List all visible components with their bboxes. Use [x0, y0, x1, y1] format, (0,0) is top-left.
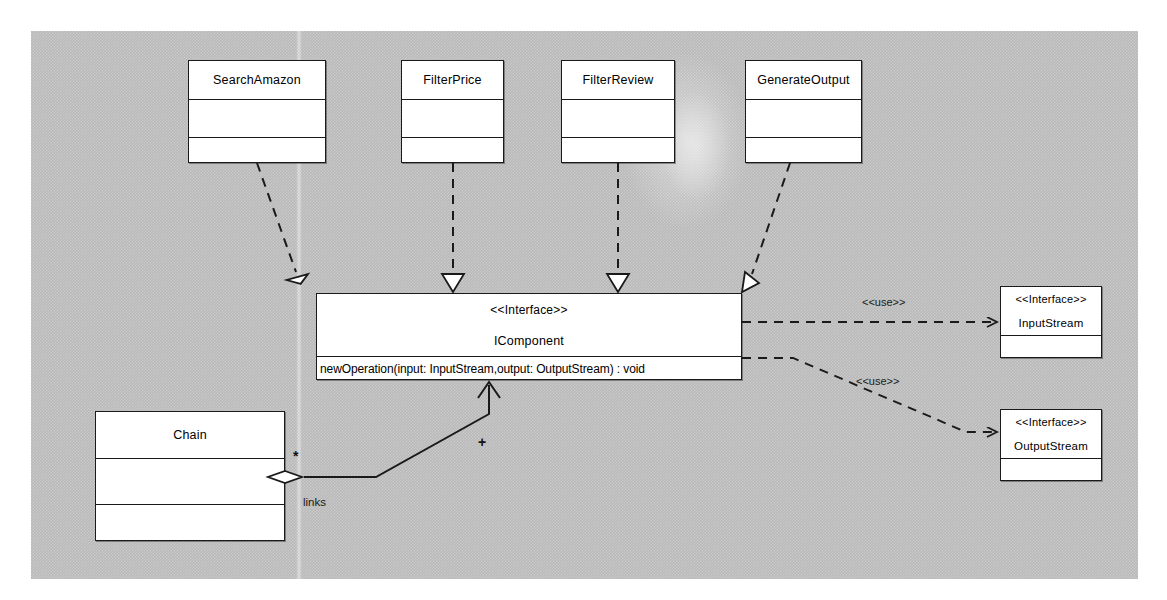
interface-operations-compartment	[1001, 458, 1101, 482]
class-operations-compartment	[746, 137, 861, 162]
interface-name-compartment: IComponent	[317, 325, 741, 356]
interface-stereotype-label: <<Interface>>	[1015, 416, 1086, 428]
class-box-generate-output[interactable]: GenerateOutput	[745, 60, 862, 163]
class-attributes-compartment	[562, 99, 674, 137]
interface-box-input-stream[interactable]: <<Interface>> InputStream	[1000, 286, 1102, 358]
use-label-output-stream: <<use>>	[856, 375, 899, 387]
class-name-compartment: FilterPrice	[402, 61, 503, 99]
class-operations-compartment	[96, 504, 284, 540]
interface-operations-compartment: newOperation(input: InputStream,output: …	[317, 356, 741, 381]
association-label-links: links	[303, 496, 326, 508]
interface-name-label: InputStream	[1019, 317, 1084, 329]
class-box-filter-review[interactable]: FilterReview	[561, 60, 675, 163]
interface-name-compartment: OutputStream	[1001, 434, 1101, 458]
class-name-label: Chain	[173, 428, 207, 442]
class-box-filter-price[interactable]: FilterPrice	[401, 60, 504, 163]
interface-name-label: OutputStream	[1014, 440, 1088, 452]
interface-stereotype-compartment: <<Interface>>	[1001, 410, 1101, 434]
class-name-label: FilterReview	[582, 73, 653, 87]
interface-operations-compartment	[1001, 335, 1101, 359]
operation-signature-label: newOperation(input: InputStream,output: …	[320, 362, 645, 376]
interface-name-label: IComponent	[494, 334, 564, 348]
interface-stereotype-compartment: <<Interface>>	[1001, 287, 1101, 311]
interface-stereotype-label: <<Interface>>	[1015, 293, 1086, 305]
class-operations-compartment	[189, 137, 325, 162]
class-name-compartment: Chain	[96, 412, 284, 458]
interface-stereotype-label: <<Interface>>	[490, 303, 567, 317]
class-attributes-compartment	[402, 99, 503, 137]
interface-box-output-stream[interactable]: <<Interface>> OutputStream	[1000, 409, 1102, 481]
class-attributes-compartment	[189, 99, 325, 137]
class-attributes-compartment	[746, 99, 861, 137]
use-label-input-stream: <<use>>	[862, 296, 905, 308]
class-box-search-amazon[interactable]: SearchAmazon	[188, 60, 326, 163]
class-name-label: GenerateOutput	[757, 73, 849, 87]
class-box-chain[interactable]: Chain	[95, 411, 285, 541]
class-name-compartment: GenerateOutput	[746, 61, 861, 99]
class-name-compartment: FilterReview	[562, 61, 674, 99]
interface-name-compartment: InputStream	[1001, 311, 1101, 335]
class-operations-compartment	[562, 137, 674, 162]
diagram-stage: SearchAmazon FilterPrice FilterReview Ge…	[0, 0, 1167, 600]
class-name-label: FilterPrice	[423, 73, 481, 87]
class-name-label: SearchAmazon	[213, 73, 301, 87]
source-multiplicity-label: *	[293, 449, 298, 463]
class-operations-compartment	[402, 137, 503, 162]
interface-box-icomponent[interactable]: <<Interface>> IComponent newOperation(in…	[316, 293, 742, 380]
class-name-compartment: SearchAmazon	[189, 61, 325, 99]
class-attributes-compartment	[96, 458, 284, 504]
target-multiplicity-label: +	[478, 435, 486, 449]
interface-stereotype-compartment: <<Interface>>	[317, 294, 741, 325]
